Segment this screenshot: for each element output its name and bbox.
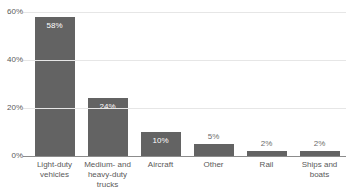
gridline (28, 108, 346, 109)
bar-slot: 58% (28, 12, 81, 156)
bar-slot: 24% (81, 12, 134, 156)
plot-area: 58%24%10%5%2%2% 0%20%40%60% (28, 12, 346, 156)
x-axis-category-label: Other (187, 160, 240, 170)
x-axis-category-label: Aircraft (134, 160, 187, 170)
y-tick-mark (23, 108, 28, 109)
bar-series: 58%24%10%5%2%2% (28, 12, 346, 156)
axis-baseline (28, 156, 346, 157)
y-axis-tick-label: 0% (11, 152, 23, 160)
bar-value-label: 2% (314, 139, 326, 148)
bar: 5% (194, 144, 234, 156)
x-axis-category-label: Ships and boats (293, 160, 346, 180)
y-axis-tick-label: 60% (7, 8, 23, 16)
gridline (28, 12, 346, 13)
bar-value-label: 10% (141, 136, 181, 145)
y-tick-mark (23, 12, 28, 13)
bar-value-label: 58% (35, 21, 75, 30)
bar-slot: 2% (293, 12, 346, 156)
bar-value-label: 24% (88, 102, 128, 111)
x-axis-category-label: Medium- and heavy-duty trucks (81, 160, 134, 190)
bar-slot: 10% (134, 12, 187, 156)
y-axis-tick-label: 40% (7, 56, 23, 64)
y-axis-tick-label: 20% (7, 104, 23, 112)
bar-slot: 5% (187, 12, 240, 156)
bar-slot: 2% (240, 12, 293, 156)
gridline (28, 60, 346, 61)
x-axis-category-label: Light-duty vehicles (28, 160, 81, 180)
bar: 10% (141, 132, 181, 156)
y-tick-mark (23, 156, 28, 157)
x-axis-category-labels: Light-duty vehiclesMedium- and heavy-dut… (28, 160, 346, 190)
bar: 58% (35, 17, 75, 156)
bar-value-label: 2% (261, 139, 273, 148)
y-tick-mark (23, 60, 28, 61)
bar-value-label: 5% (208, 132, 220, 141)
bar-chart: 58%24%10%5%2%2% 0%20%40%60% Light-duty v… (0, 0, 350, 195)
x-axis-category-label: Rail (240, 160, 293, 170)
